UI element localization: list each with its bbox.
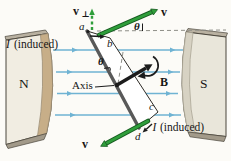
v-perp-arrowhead-icon <box>89 9 95 16</box>
induced-bottom-symbol: I <box>152 121 158 133</box>
south-pole-label: S <box>200 76 208 91</box>
field-arrowhead-icon <box>166 91 172 96</box>
v-perp-label: v <box>73 4 79 18</box>
induced-bottom-note: (induced) <box>160 121 204 134</box>
corner-d-label: d <box>135 130 141 142</box>
corner-b-label: b <box>107 37 113 49</box>
wire-loop <box>86 30 158 128</box>
v-perp-subscript: ⊥ <box>82 9 90 19</box>
field-arrowhead-icon <box>70 112 76 117</box>
velocity-top-label: v <box>161 5 167 19</box>
field-arrowhead-icon <box>67 91 73 96</box>
velocity-bottom-label: v <box>82 137 88 151</box>
field-label: B <box>160 75 168 89</box>
corner-c-label: c <box>149 100 154 112</box>
axis-leader-line <box>95 86 114 88</box>
velocity-arrow-bottom <box>101 121 148 146</box>
field-arrowhead-icon <box>170 47 176 52</box>
field-arrowhead-icon <box>168 69 174 74</box>
theta-top-label: θ <box>134 20 140 32</box>
corner-a-label: a <box>79 20 85 32</box>
induced-top-note: (induced) <box>14 38 58 51</box>
axis-label: Axis <box>72 79 93 91</box>
generator-diagram: N S B Axis a b c d θ θ v v v ⊥ I (induce… <box>0 0 231 161</box>
v-perpendicular-arrow <box>89 9 95 31</box>
loop-face <box>87 31 158 128</box>
field-arrowhead-icon <box>67 69 73 74</box>
field-arrowhead-icon <box>169 112 175 117</box>
pivot-point-a <box>86 30 89 33</box>
field-arrowhead-icon <box>72 47 78 52</box>
theta-middle-label: θ <box>98 55 104 67</box>
axis-pointer <box>95 83 119 87</box>
north-pole-label: N <box>19 76 29 91</box>
